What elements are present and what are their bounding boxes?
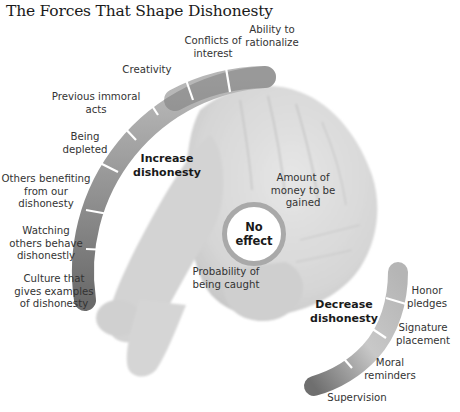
factor-being-depleted: Being depleted <box>62 131 107 156</box>
diagram-canvas: The Forces That Shape Dishonesty <box>0 0 460 412</box>
factor-label-line: dishonesty <box>1 198 90 211</box>
factor-creativity: Creativity <box>122 64 171 77</box>
factor-probability-of-being-caught: Probability of being caught <box>193 266 260 291</box>
factor-label-line: Creativity <box>122 64 171 77</box>
factor-label-line: rationalize <box>245 37 298 50</box>
factor-label-line: Watching <box>9 225 82 238</box>
no-effect-circle: No effect <box>222 202 286 266</box>
factor-ability-to-rationalize: Ability to rationalize <box>245 24 298 49</box>
factor-watching-others: Watching others behave dishonestly <box>9 225 82 263</box>
factor-label-line: placement <box>396 335 450 348</box>
factor-label-line: Previous immoral <box>52 91 140 104</box>
factor-label-line: gives examples <box>14 286 93 299</box>
factor-others-benefiting: Others benefiting from our dishonesty <box>1 173 90 211</box>
factor-previous-immoral-acts: Previous immoral acts <box>52 91 140 116</box>
factor-label-line: acts <box>52 104 140 117</box>
no-effect-label: No effect <box>235 220 272 248</box>
factor-label-line: gained <box>271 197 335 210</box>
factor-label-line: Amount of <box>271 172 335 185</box>
factor-label-line: Probability of <box>193 266 260 279</box>
factor-label-line: Moral <box>364 357 416 370</box>
factor-label-line: money to be <box>271 185 335 198</box>
factor-supervision: Supervision <box>327 392 387 405</box>
decrease-dishonesty-heading: Decrease dishonesty <box>310 298 378 325</box>
factor-label-line: Honor <box>407 285 447 298</box>
factor-honor-pledges: Honor pledges <box>407 285 447 310</box>
factor-label-line: of dishonesty <box>14 298 93 311</box>
heading-line: dishonesty <box>133 166 201 180</box>
factor-label-line: pledges <box>407 298 447 311</box>
factor-label-line: Conflicts of <box>184 35 241 48</box>
factor-label-line: Culture that <box>14 273 93 286</box>
increase-dishonesty-heading: Increase dishonesty <box>133 152 201 179</box>
factor-label-line: Signature <box>396 322 450 335</box>
factor-label-line: being caught <box>193 279 260 292</box>
heading-line: dishonesty <box>310 312 378 326</box>
heading-line: Decrease <box>310 298 378 312</box>
factor-signature-placement: Signature placement <box>396 322 450 347</box>
factor-label-line: Supervision <box>327 392 387 405</box>
factor-label-line: dishonestly <box>9 250 82 263</box>
factor-label-line: others behave <box>9 238 82 251</box>
factor-label-line: interest <box>184 48 241 61</box>
factor-label-line: Being <box>62 131 107 144</box>
factor-label-line: reminders <box>364 370 416 383</box>
factor-conflicts-of-interest: Conflicts of interest <box>184 35 241 60</box>
factor-label-line: Ability to <box>245 24 298 37</box>
factor-label-line: depleted <box>62 144 107 157</box>
factor-label-line: Others benefiting <box>1 173 90 186</box>
heading-line: Increase <box>133 152 201 166</box>
factor-culture-examples: Culture that gives examples of dishonest… <box>14 273 93 311</box>
factor-amount-of-money: Amount of money to be gained <box>271 172 335 210</box>
factor-moral-reminders: Moral reminders <box>364 357 416 382</box>
factor-label-line: from our <box>1 186 90 199</box>
